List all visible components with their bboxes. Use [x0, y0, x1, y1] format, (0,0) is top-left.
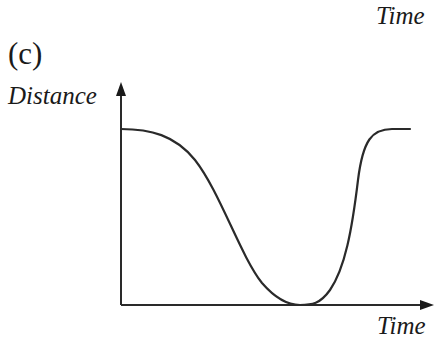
x-axis-arrow-icon: [420, 300, 434, 310]
chart-plot: [0, 0, 434, 344]
y-axis-arrow-icon: [116, 82, 126, 96]
distance-curve: [121, 129, 410, 305]
